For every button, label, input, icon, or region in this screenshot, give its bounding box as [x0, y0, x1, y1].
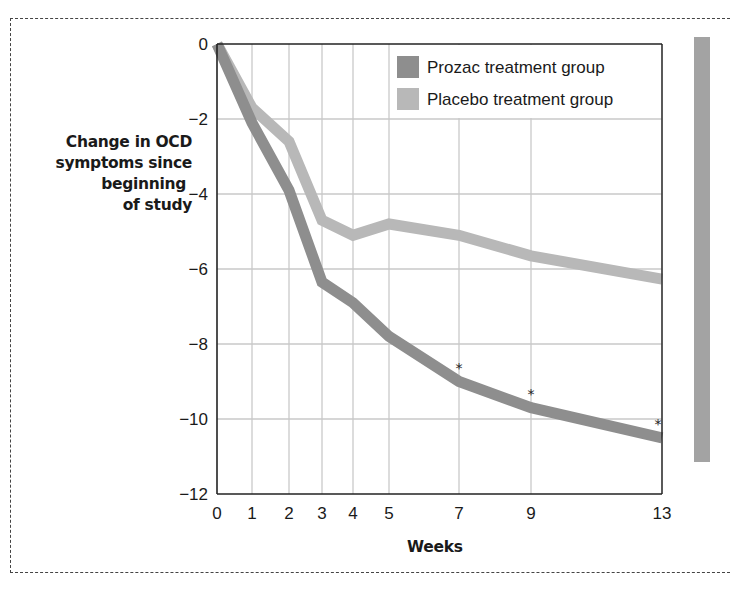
- y-tick-label: −10: [179, 410, 208, 429]
- x-tick-label: 5: [384, 504, 393, 523]
- significance-star: *: [528, 386, 535, 402]
- legend-swatch-prozac: [397, 56, 419, 78]
- y-tick-label: −8: [189, 335, 208, 354]
- x-tick-label: 9: [526, 504, 535, 523]
- legend-swatch-placebo: [397, 88, 419, 110]
- side-decorative-bar: [694, 37, 710, 462]
- x-tick-label: 13: [653, 504, 672, 523]
- x-tick-label: 2: [284, 504, 293, 523]
- significance-star: *: [456, 360, 463, 376]
- y-tick-label: 0: [199, 35, 208, 54]
- x-tick-label: 1: [247, 504, 256, 523]
- x-tick-label: 3: [317, 504, 326, 523]
- y-tick-label: −12: [179, 485, 208, 504]
- x-tick-label: 4: [348, 504, 357, 523]
- legend-label-prozac: Prozac treatment group: [427, 58, 605, 77]
- legend-label-placebo: Placebo treatment group: [427, 90, 613, 109]
- y-tick-label: −4: [189, 185, 208, 204]
- x-tick-label: 7: [454, 504, 463, 523]
- y-tick-label: −6: [189, 260, 208, 279]
- significance-star: *: [655, 416, 662, 432]
- x-tick-label: 0: [212, 504, 221, 523]
- y-tick-label: −2: [189, 110, 208, 129]
